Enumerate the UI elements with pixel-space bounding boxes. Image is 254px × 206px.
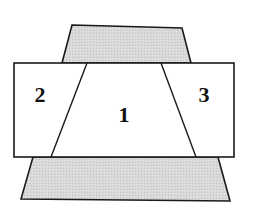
bottom-shaded-trapezoid (21, 157, 230, 201)
top-shaded-trapezoid (62, 25, 191, 63)
region-label-1: 1 (119, 102, 130, 127)
region-label-2: 2 (35, 82, 46, 107)
region-label-3: 3 (199, 82, 210, 107)
trapezoid-region-diagram: 1 2 3 (0, 0, 254, 206)
